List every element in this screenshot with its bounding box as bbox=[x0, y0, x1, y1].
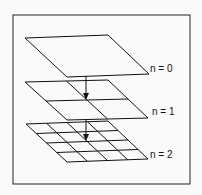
level-label-n2: n = 2 bbox=[150, 149, 173, 160]
grid-hierarchy-diagram: n = 0 n = 1 n = 2 bbox=[0, 0, 202, 195]
level-label-n0: n = 0 bbox=[150, 63, 173, 74]
grid-plane-level-0 bbox=[25, 35, 149, 77]
grid-plane-level-2 bbox=[26, 121, 148, 162]
level-label-n1: n = 1 bbox=[152, 106, 175, 117]
